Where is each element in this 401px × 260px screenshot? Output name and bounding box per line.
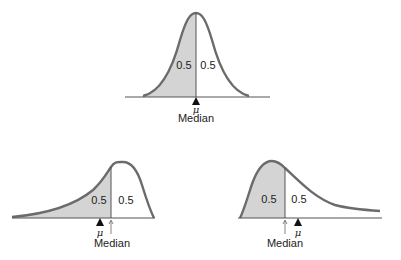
right-skewed-distribution: 0.5 0.5 μ Median xyxy=(238,161,382,249)
symmetric-distribution: 0.5 0.5 μ Median xyxy=(125,13,270,124)
distribution-diagrams: 0.5 0.5 μ Median 0.5 0.5 μ Median 0.5 0.… xyxy=(0,0,401,260)
median-label: Median xyxy=(178,112,214,124)
left-half-shade xyxy=(12,167,111,218)
right-area-label: 0.5 xyxy=(291,193,306,205)
left-area-label: 0.5 xyxy=(176,59,191,71)
right-area-label: 0.5 xyxy=(200,59,215,71)
median-label: Median xyxy=(94,237,130,249)
left-half-shade xyxy=(240,161,285,218)
left-area-label: 0.5 xyxy=(261,193,276,205)
mean-triangle-icon xyxy=(294,218,302,226)
mean-triangle-icon xyxy=(96,218,104,226)
right-area-label: 0.5 xyxy=(118,194,133,206)
left-area-label: 0.5 xyxy=(91,194,106,206)
median-label: Median xyxy=(267,237,303,249)
left-half-shade xyxy=(143,13,196,97)
left-skewed-distribution: 0.5 0.5 μ Median xyxy=(12,162,155,249)
